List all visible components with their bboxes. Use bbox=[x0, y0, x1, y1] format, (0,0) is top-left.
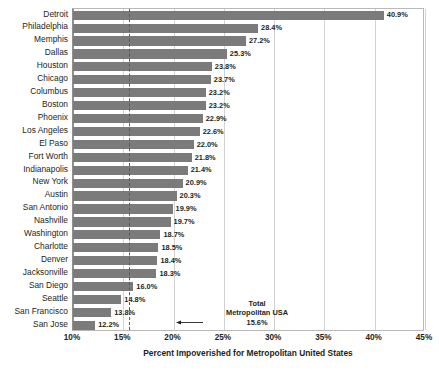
bar bbox=[73, 11, 384, 20]
bar bbox=[73, 230, 160, 239]
y-axis-label: Chicago bbox=[0, 72, 68, 84]
bar-row: 23.7% bbox=[73, 74, 423, 87]
bar-value-label: 23.2% bbox=[209, 100, 230, 111]
bar-row: 22.6% bbox=[73, 125, 423, 138]
bar-value-label: 18.4% bbox=[160, 255, 181, 266]
bar-row: 19.9% bbox=[73, 203, 423, 216]
y-axis-label: San Jose bbox=[0, 318, 68, 330]
x-axis-tick-label: 25% bbox=[215, 333, 231, 342]
bar-value-label: 27.2% bbox=[249, 35, 270, 46]
y-axis-label: Indianapolis bbox=[0, 163, 68, 175]
y-axis-label: Charlotte bbox=[0, 240, 68, 252]
bar-row: 40.9% bbox=[73, 9, 423, 22]
x-axis-tick-label: 30% bbox=[265, 333, 281, 342]
bar-rows: 40.9%28.4%27.2%25.3%23.8%23.7%23.2%23.2%… bbox=[73, 9, 423, 330]
bar-row: 23.2% bbox=[73, 99, 423, 112]
bar-row: 25.3% bbox=[73, 48, 423, 61]
bar bbox=[73, 179, 183, 188]
bar-value-label: 13.8% bbox=[114, 307, 135, 318]
reference-line-total-metropolitan-usa bbox=[129, 9, 130, 330]
bar-value-label: 20.9% bbox=[186, 177, 207, 188]
bar-value-label: 21.4% bbox=[191, 164, 212, 175]
y-axis-label: San Antonio bbox=[0, 201, 68, 213]
y-axis-label: Phoenix bbox=[0, 111, 68, 123]
y-axis-label: Dallas bbox=[0, 46, 68, 58]
bar bbox=[73, 321, 95, 330]
bar bbox=[73, 295, 121, 304]
bar-row: 18.5% bbox=[73, 242, 423, 255]
x-axis-tick-label: 15% bbox=[114, 333, 130, 342]
bar-row: 23.8% bbox=[73, 61, 423, 74]
bar-row: 18.4% bbox=[73, 254, 423, 267]
y-axis-label: New York bbox=[0, 175, 68, 187]
bar-row: 27.2% bbox=[73, 35, 423, 48]
bar-row: 21.8% bbox=[73, 151, 423, 164]
bar-value-label: 23.8% bbox=[215, 61, 236, 72]
bar-value-label: 18.7% bbox=[163, 229, 184, 240]
bar-value-label: 40.9% bbox=[387, 9, 408, 20]
bar bbox=[73, 101, 206, 110]
bar-value-label: 16.0% bbox=[136, 281, 157, 292]
bar-row: 20.3% bbox=[73, 190, 423, 203]
bar bbox=[73, 217, 171, 226]
x-axis-tick-labels: 10%15%20%25%30%35%40%45% bbox=[0, 333, 439, 349]
bar bbox=[73, 140, 194, 149]
x-axis-tick-label: 40% bbox=[366, 333, 382, 342]
bar-row: 22.9% bbox=[73, 112, 423, 125]
bar bbox=[73, 153, 192, 162]
annotation-line-1: Total bbox=[203, 299, 311, 308]
bar-value-label: 12.2% bbox=[98, 319, 119, 330]
bar bbox=[73, 114, 203, 123]
y-axis-label: San Francisco bbox=[0, 305, 68, 317]
bar bbox=[73, 127, 200, 136]
bar-value-label: 18.5% bbox=[161, 242, 182, 253]
bar bbox=[73, 308, 111, 317]
y-axis-label: Los Angeles bbox=[0, 124, 68, 136]
bar bbox=[73, 191, 177, 200]
bar bbox=[73, 24, 258, 33]
annotation-line-3: 15.6% bbox=[203, 318, 311, 327]
y-axis-label: Columbus bbox=[0, 85, 68, 97]
bar bbox=[73, 282, 133, 291]
reference-line-annotation: Total Metropolitan USA 15.6% bbox=[203, 299, 311, 327]
bar bbox=[73, 243, 158, 252]
y-axis-label: Seattle bbox=[0, 292, 68, 304]
y-axis-label: Nashville bbox=[0, 214, 68, 226]
bar-value-label: 18.3% bbox=[159, 268, 180, 279]
bar-value-label: 22.0% bbox=[197, 139, 218, 150]
bar-value-label: 19.9% bbox=[176, 203, 197, 214]
bar-row: 19.7% bbox=[73, 216, 423, 229]
bar bbox=[73, 75, 211, 84]
bar-value-label: 20.3% bbox=[180, 190, 201, 201]
bar-row: 23.2% bbox=[73, 87, 423, 100]
bar-value-label: 28.4% bbox=[261, 22, 282, 33]
annotation-arrow-icon bbox=[176, 319, 204, 326]
y-axis-label: Philadelphia bbox=[0, 20, 68, 32]
bar-value-label: 14.8% bbox=[124, 294, 145, 305]
bar bbox=[73, 166, 188, 175]
bar bbox=[73, 204, 173, 213]
y-axis-label: Fort Worth bbox=[0, 150, 68, 162]
bar bbox=[73, 269, 156, 278]
bar-row: 16.0% bbox=[73, 280, 423, 293]
x-axis-tick-label: 45% bbox=[416, 333, 432, 342]
x-axis-title: Percent Impoverished for Metropolitan Un… bbox=[72, 348, 424, 358]
bar-value-label: 25.3% bbox=[230, 48, 251, 59]
y-axis-label: El Paso bbox=[0, 137, 68, 149]
bar-value-label: 19.7% bbox=[174, 216, 195, 227]
plot-area: 40.9%28.4%27.2%25.3%23.8%23.7%23.2%23.2%… bbox=[72, 8, 424, 331]
bar-row: 22.0% bbox=[73, 138, 423, 151]
bar-value-label: 23.7% bbox=[214, 74, 235, 85]
bar bbox=[73, 62, 212, 71]
bar-row: 18.7% bbox=[73, 229, 423, 242]
bar-row: 18.3% bbox=[73, 267, 423, 280]
bar bbox=[73, 88, 206, 97]
x-axis-tick-label: 20% bbox=[164, 333, 180, 342]
x-axis-tick-label: 10% bbox=[64, 333, 80, 342]
y-axis-label: Austin bbox=[0, 188, 68, 200]
bar-value-label: 22.9% bbox=[206, 113, 227, 124]
y-axis-label: Washington bbox=[0, 227, 68, 239]
bar-row: 20.9% bbox=[73, 177, 423, 190]
bar-row: 21.4% bbox=[73, 164, 423, 177]
bar-row: 28.4% bbox=[73, 22, 423, 35]
